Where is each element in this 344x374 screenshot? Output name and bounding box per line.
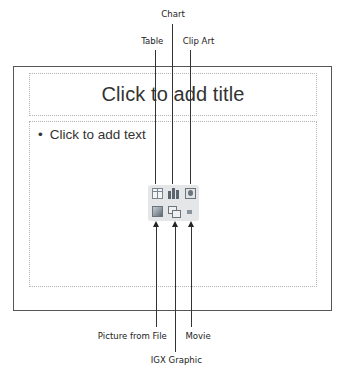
callout-label-clip-art: Clip Art — [183, 35, 215, 46]
leader-line-chart-overlay — [172, 66, 173, 184]
title-placeholder[interactable]: Click to add title — [29, 73, 317, 116]
bullet: • — [38, 127, 43, 142]
insert-content-icon-panel — [148, 185, 199, 221]
callout-label-picture-from-file: Picture from File — [98, 330, 167, 341]
leader-line-table-overlay — [155, 66, 156, 184]
clip-art-icon[interactable] — [185, 188, 196, 199]
leader-line-picture — [156, 226, 157, 327]
content-placeholder-text: Click to add text — [50, 127, 146, 142]
igx-graphic-icon[interactable] — [168, 206, 179, 217]
callout-label-chart: Chart — [161, 8, 184, 19]
callout-label-igx-graphic: IGX Graphic — [151, 354, 202, 365]
callout-label-movie: Movie — [185, 330, 210, 341]
table-icon[interactable] — [152, 188, 163, 199]
chart-icon[interactable] — [168, 188, 179, 199]
leader-line-movie — [191, 226, 192, 327]
callout-label-table: Table — [141, 35, 163, 46]
leader-line-igx — [175, 226, 176, 352]
leader-line-clip-art-overlay — [190, 66, 191, 184]
movie-icon[interactable] — [187, 210, 192, 214]
picture-icon[interactable] — [152, 206, 163, 217]
